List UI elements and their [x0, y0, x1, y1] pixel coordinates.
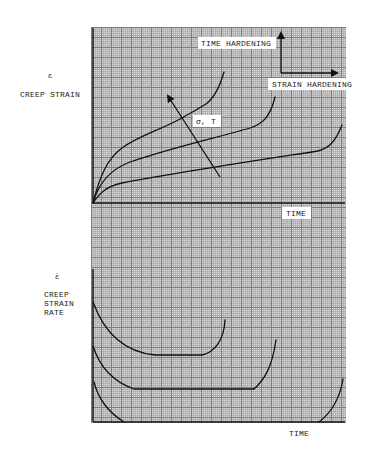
- bottom-y-axis-label-line1: CREEP: [44, 290, 69, 299]
- time-hardening-label: TIME HARDENING: [201, 39, 271, 48]
- bottom-y-axis-label-line3: RATE: [44, 308, 64, 317]
- strain-hardening-label: STRAIN HARDENING: [272, 80, 352, 89]
- sigma-t-label: σ, T: [196, 117, 216, 126]
- top-y-axis-label: CREEP STRAIN: [20, 90, 80, 99]
- creep-diagram: σ, T TIME HARDENING STRAIN HARDENING TIM…: [0, 0, 377, 457]
- bottom-x-axis-label: TIME: [289, 429, 309, 438]
- epsilon-dot-symbol: ε̇: [55, 272, 59, 281]
- epsilon-symbol: ε: [48, 71, 52, 80]
- top-x-axis-label: TIME: [286, 209, 306, 218]
- bottom-y-axis-label-line2: STRAIN: [44, 299, 74, 308]
